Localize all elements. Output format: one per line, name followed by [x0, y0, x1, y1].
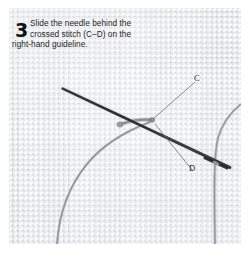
point-label-d: D — [189, 164, 195, 173]
step-number: 3 — [15, 21, 28, 40]
leader-lines — [153, 82, 195, 171]
right-guideline-thread — [214, 104, 241, 244]
caption-text: Slide the needle behind the crossed stit… — [12, 18, 197, 50]
point-label-c: C — [194, 74, 200, 83]
working-thread-curve — [57, 122, 150, 244]
caption-line-1: Slide the needle behind the — [12, 18, 197, 29]
caption-line-3: right-hand guideline. — [12, 39, 197, 50]
needle — [62, 88, 231, 168]
step-caption: 3 Slide the needle behind the crossed st… — [12, 18, 197, 50]
figure-panel: C D 3 Slide the needle behind the crosse… — [0, 0, 250, 258]
caption-line-2: crossed stitch (C–D) on the — [12, 29, 197, 40]
